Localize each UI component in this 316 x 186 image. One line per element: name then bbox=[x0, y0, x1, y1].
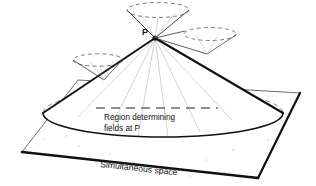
left-cone-left-edge bbox=[73, 60, 104, 80]
light-cone-figure: P Region determining fields at P Simulta… bbox=[0, 0, 316, 186]
upper-dashed-cone bbox=[127, 3, 189, 39]
region-label-line2: fields at P bbox=[104, 124, 140, 133]
figure-canvas: P Region determining fields at P Simulta… bbox=[0, 0, 316, 186]
right-cone-generators bbox=[196, 33, 219, 54]
right-cone-side-edge bbox=[207, 35, 236, 54]
upper-cone-left-edge bbox=[127, 10, 155, 38]
right-cone-rim bbox=[184, 28, 236, 41]
point-p-label: P bbox=[142, 27, 148, 37]
upper-cone-rim bbox=[127, 3, 189, 18]
left-cone-rim bbox=[73, 54, 123, 66]
region-label-line1: Region determining bbox=[104, 113, 175, 122]
